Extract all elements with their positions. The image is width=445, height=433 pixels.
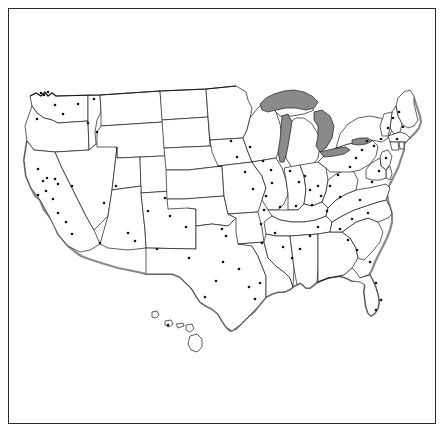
city-marker	[299, 248, 302, 251]
city-marker	[244, 171, 247, 174]
city-marker	[71, 233, 74, 236]
city-marker	[356, 249, 359, 252]
city-marker	[71, 185, 74, 188]
city-marker	[204, 296, 207, 299]
city-marker	[52, 198, 55, 201]
city-marker	[385, 157, 388, 160]
state-connecticut[interactable]	[390, 142, 399, 150]
city-marker	[221, 228, 224, 231]
city-marker	[366, 140, 369, 143]
state-rhode-island[interactable]	[399, 142, 404, 149]
city-marker	[40, 92, 43, 95]
city-marker	[398, 111, 401, 114]
city-marker	[45, 190, 48, 193]
city-marker	[215, 280, 218, 283]
city-marker	[265, 195, 268, 198]
state-south-dakota[interactable]	[162, 117, 210, 148]
city-marker	[57, 212, 60, 215]
city-marker	[37, 194, 40, 197]
city-marker	[42, 180, 45, 183]
city-marker	[337, 174, 340, 177]
city-marker	[349, 166, 352, 169]
city-marker	[309, 189, 312, 192]
city-marker	[378, 170, 381, 173]
state-montana[interactable]	[100, 91, 163, 126]
city-marker	[270, 169, 273, 172]
city-marker	[359, 199, 362, 202]
island-oahu	[165, 320, 173, 327]
city-marker	[375, 309, 378, 312]
city-marker	[320, 195, 323, 198]
city-marker	[169, 215, 172, 218]
city-marker	[260, 223, 263, 226]
city-marker	[375, 282, 378, 285]
city-marker	[222, 261, 225, 264]
city-marker	[271, 182, 274, 185]
state-massachusetts[interactable]	[388, 132, 410, 142]
state-alabama[interactable]	[290, 234, 318, 288]
city-marker	[402, 126, 405, 129]
city-marker	[380, 299, 383, 302]
city-marker	[249, 146, 252, 149]
lake-huron	[314, 110, 334, 152]
city-marker	[99, 242, 102, 245]
island-maui	[186, 324, 194, 332]
city-marker	[46, 177, 49, 180]
city-marker	[47, 91, 50, 94]
state-boundaries-group	[24, 86, 418, 331]
city-marker	[156, 248, 159, 251]
city-marker	[259, 282, 262, 285]
city-marker	[37, 168, 40, 171]
city-marker	[262, 160, 265, 163]
city-marker	[367, 212, 370, 215]
city-marker	[392, 117, 395, 120]
city-marker	[289, 170, 292, 173]
city-marker	[127, 232, 130, 235]
city-marker	[291, 257, 294, 260]
city-marker	[326, 210, 329, 213]
city-marker	[188, 257, 191, 260]
city-marker	[317, 226, 320, 229]
city-marker	[317, 185, 320, 188]
island-kauai	[152, 311, 159, 318]
city-marker	[36, 118, 39, 121]
city-marker	[62, 113, 65, 116]
city-marker	[339, 196, 342, 199]
city-marker	[387, 127, 390, 130]
map-figure-root	[0, 0, 445, 433]
city-marker	[236, 156, 239, 159]
city-marker	[103, 202, 106, 205]
city-marker	[295, 205, 298, 208]
city-marker	[361, 149, 364, 152]
city-marker	[54, 104, 57, 107]
hawaii-inset-group[interactable]	[152, 311, 202, 352]
city-marker	[347, 239, 350, 242]
city-marker	[54, 178, 57, 181]
city-marker	[225, 235, 228, 238]
state-minnesota[interactable]	[206, 86, 252, 140]
city-marker	[371, 181, 374, 184]
island-hawaii-big	[188, 334, 202, 352]
city-marker	[164, 197, 167, 200]
city-marker	[57, 183, 60, 186]
city-marker	[87, 122, 90, 125]
city-marker	[147, 210, 150, 213]
city-marker	[373, 145, 376, 148]
city-marker	[329, 185, 332, 188]
city-marker	[263, 209, 266, 212]
city-marker	[396, 138, 399, 141]
city-marker	[339, 228, 342, 231]
city-marker	[167, 324, 170, 327]
city-marker	[96, 131, 99, 134]
city-marker	[304, 175, 307, 178]
island-molokai	[176, 323, 184, 328]
city-marker	[230, 140, 233, 143]
city-marker	[298, 181, 301, 184]
city-marker	[65, 221, 68, 224]
city-marker	[248, 286, 251, 289]
city-marker	[279, 206, 282, 209]
state-north-dakota[interactable]	[160, 89, 208, 120]
city-marker	[77, 103, 80, 106]
state-kansas[interactable]	[166, 166, 224, 199]
city-marker	[369, 261, 372, 264]
